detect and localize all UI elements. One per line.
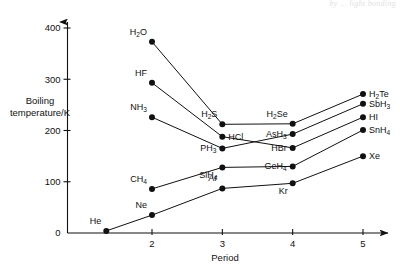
- data-point-label: GeH4: [264, 161, 287, 172]
- data-point-label: AsH3: [266, 129, 287, 140]
- data-point-label: Ar: [208, 173, 217, 183]
- data-point-label: SbH3: [369, 99, 391, 110]
- data-point-label: H2S: [201, 109, 217, 120]
- x-tick-label: 2: [149, 238, 154, 249]
- data-point: [360, 153, 366, 159]
- data-point: [360, 101, 366, 107]
- boiling-temperature-chart: by ... light bonding 0100200300400 2345 …: [0, 0, 400, 268]
- data-point: [360, 114, 366, 120]
- data-point: [219, 121, 225, 127]
- data-point: [360, 127, 366, 133]
- data-point-label: HF: [135, 68, 147, 78]
- point-labels: H2OH2SH2SeH2TeHFHClHBrHINH3PH3AsH3SbH3CH…: [90, 27, 391, 226]
- data-point-label: HI: [369, 112, 378, 122]
- x-tick-label: 4: [290, 238, 295, 249]
- series-line: [152, 42, 363, 125]
- data-point: [290, 131, 296, 137]
- data-point: [149, 80, 155, 86]
- data-point-label: Xe: [369, 151, 380, 161]
- data-point: [290, 163, 296, 169]
- series-line: [152, 83, 363, 148]
- series-line: [152, 104, 363, 149]
- data-point: [149, 39, 155, 45]
- x-axis: 2345: [68, 229, 389, 249]
- x-tick-label: 5: [360, 238, 365, 249]
- data-point-label: HCl: [228, 132, 243, 142]
- data-point-label: HBr: [271, 143, 287, 153]
- data-point: [360, 91, 366, 97]
- data-point: [219, 164, 225, 170]
- data-point-label: He: [90, 216, 102, 226]
- y-tick-label: 400: [45, 22, 61, 33]
- data-point-label: Ne: [135, 200, 147, 210]
- data-point-label: CH4: [130, 174, 147, 185]
- data-point: [149, 186, 155, 192]
- y-tick-label: 0: [55, 227, 60, 238]
- y-tick-label: 300: [45, 74, 61, 85]
- y-axis-title-line2: temperature/K: [10, 107, 71, 118]
- chart-canvas: 0100200300400 2345 H2OH2SH2SeH2TeHFHClHB…: [0, 0, 400, 268]
- x-axis-title: Period: [211, 252, 238, 263]
- x-tick-label: 3: [220, 238, 225, 249]
- data-point: [149, 212, 155, 218]
- data-point-label: SnH4: [369, 125, 391, 136]
- data-point: [149, 114, 155, 120]
- data-point: [290, 121, 296, 127]
- y-tick-label: 100: [45, 176, 61, 187]
- data-point: [219, 134, 225, 140]
- data-point: [290, 145, 296, 151]
- data-point: [219, 145, 225, 151]
- data-point-label: H2O: [130, 27, 147, 38]
- data-point: [103, 228, 109, 234]
- series-line: [152, 130, 363, 189]
- data-point-label: Kr: [279, 186, 288, 196]
- y-axis: 0100200300400: [45, 22, 71, 238]
- data-point: [219, 185, 225, 191]
- y-tick-label: 200: [45, 125, 61, 136]
- y-axis-title-line1: Boiling: [26, 95, 55, 106]
- data-point-label: NH3: [130, 102, 147, 113]
- data-point-label: H2Se: [266, 109, 287, 120]
- data-point: [290, 180, 296, 186]
